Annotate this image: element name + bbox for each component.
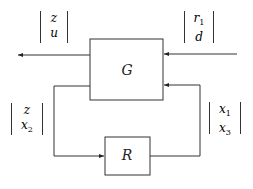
- plant-block-label: G: [115, 63, 139, 77]
- block-diagram: G R z u r1 d z x2 x1 x3: [0, 0, 253, 189]
- input-vector-r1-d: r1 d: [184, 11, 214, 43]
- loop-vector-z-x2: z x2: [11, 103, 43, 135]
- controller-block-label: R: [115, 148, 139, 162]
- loop-vector-x1-x3: x1 x3: [209, 102, 241, 134]
- output-vector-z-u: z u: [40, 11, 68, 43]
